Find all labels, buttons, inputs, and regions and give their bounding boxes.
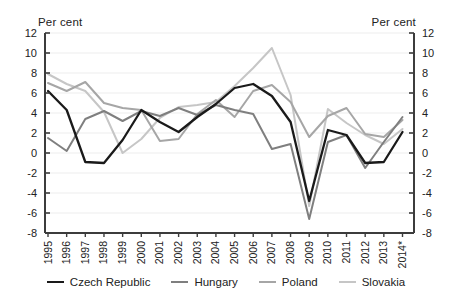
y-tick-label-right: -2 [422,167,432,179]
y-tick-label-left: 6 [31,87,37,99]
x-tick-label: 2006 [247,241,259,265]
legend-label-poland: Poland [282,276,318,288]
y-tick-label-left: 10 [25,47,37,59]
legend-item-poland: Poland [259,276,318,288]
x-tick-label: 1999 [116,241,128,265]
x-tick-label: 2001 [153,241,165,265]
y-tick-label-left: 2 [31,127,37,139]
x-tick-label: 1998 [97,241,109,265]
y-tick-label-right: -4 [422,187,432,199]
y-tick-label-right: 4 [422,107,428,119]
x-tick-label: 2012 [359,241,371,265]
legend-label-hungary: Hungary [194,276,237,288]
slovakia-line-swatch-icon [339,281,356,283]
x-tick-label: 2009 [303,241,315,265]
line-plot-canvas: 121210108866442200-2-2-4-4-6-6-8-8199519… [0,0,452,300]
x-tick-label: 2011 [340,241,352,264]
y-tick-label-left: -2 [27,167,37,179]
y-tick-label-right: 0 [422,147,428,159]
y-tick-label-right: 8 [422,67,428,79]
x-tick-label: 1995 [42,241,54,265]
series-line-slovakia [48,48,403,206]
gdp-growth-chart: Per cent Per cent 121210108866442200-2-2… [0,0,452,300]
x-tick-label: 2013 [377,241,389,265]
chart-legend: Czech Republic Hungary Poland Slovakia [0,272,452,292]
x-tick-label: 2000 [135,241,147,265]
y-tick-label-left: -8 [27,227,37,239]
x-tick-label: 2002 [172,241,184,265]
x-tick-label: 1996 [60,241,72,265]
legend-label-slovakia: Slovakia [362,276,405,288]
y-tick-label-left: 12 [25,27,37,39]
legend-label-czech-republic: Czech Republic [70,276,151,288]
y-tick-label-left: -4 [27,187,37,199]
series-line-czech-republic [48,84,403,201]
y-tick-label-right: 12 [422,27,434,39]
y-tick-label-left: -6 [27,207,37,219]
x-tick-label: 2007 [265,241,277,265]
x-tick-label: 2003 [191,241,203,265]
x-tick-label: 2005 [228,241,240,265]
x-tick-label: 2004 [209,241,221,265]
y-tick-label-right: 10 [422,47,434,59]
legend-item-slovakia: Slovakia [339,276,405,288]
y-tick-label-left: 0 [31,147,37,159]
x-tick-label: 2010 [321,241,333,265]
x-tick-label: 2014* [396,241,408,268]
y-tick-label-right: 2 [422,127,428,139]
legend-item-hungary: Hungary [171,276,237,288]
legend-item-czech-republic: Czech Republic [47,276,151,288]
czech-republic-line-swatch-icon [47,281,64,283]
hungary-line-swatch-icon [171,281,188,283]
y-tick-label-right: -6 [422,207,432,219]
y-tick-label-right: 6 [422,87,428,99]
x-tick-label: 1997 [79,241,91,265]
poland-line-swatch-icon [259,281,276,283]
y-tick-label-left: 4 [31,107,37,119]
x-tick-label: 2008 [284,241,296,265]
y-tick-label-right: -8 [422,227,432,239]
y-tick-label-left: 8 [31,67,37,79]
